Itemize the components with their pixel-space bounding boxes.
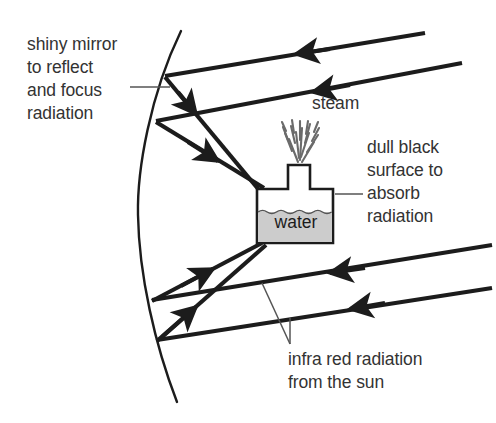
label-dull-black-surface: dull black surface to absorb radiation — [367, 136, 443, 228]
reflected-arrow-3 — [181, 269, 213, 286]
incoming-ray-1 — [165, 33, 425, 76]
steam-plume — [282, 120, 319, 162]
reflected-arrow-4 — [162, 307, 196, 337]
incoming-arrow-1 — [296, 49, 330, 54]
label-water: water — [258, 212, 334, 233]
label-shiny-mirror: shiny mirror to reflect and focus radiat… — [27, 33, 117, 125]
label-infra-red-radiation: infra red radiation from the sun — [288, 348, 422, 394]
reflected-arrow-2 — [188, 142, 218, 161]
reflected-arrow-1 — [178, 92, 196, 114]
incoming-arrow-4 — [350, 303, 385, 309]
label-steam: steam — [312, 92, 359, 115]
leader-line-incoming-1 — [262, 283, 290, 344]
diagram-canvas: shiny mirror to reflect and focus radiat… — [0, 0, 496, 423]
